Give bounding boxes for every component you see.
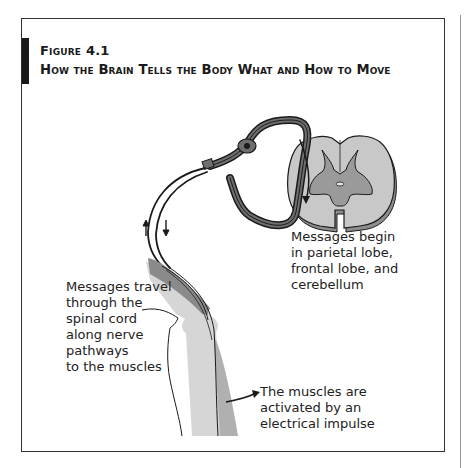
caption-messages-travel: Messages travel through the spinal cord … <box>66 279 172 375</box>
caption-messages-begin: Messages begin in parietal lobe, frontal… <box>291 229 398 293</box>
nerve-fibers <box>148 159 214 268</box>
caption-muscles-activated: The muscles are activated by an electric… <box>260 384 375 432</box>
muscle-pointer-arrow <box>226 390 260 402</box>
nerve-diagram <box>0 0 476 468</box>
ganglion <box>238 139 256 153</box>
